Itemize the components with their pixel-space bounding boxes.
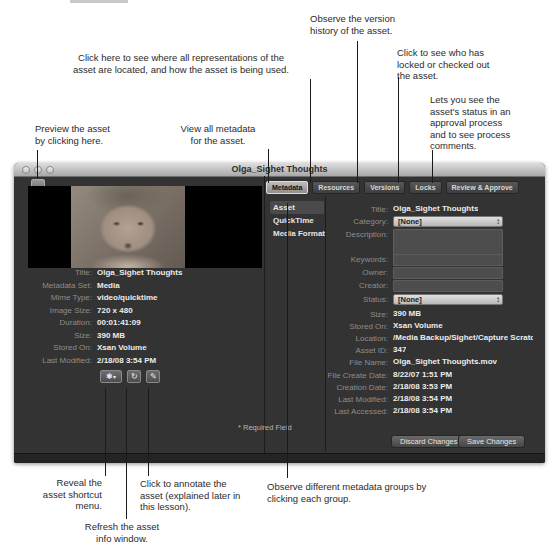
form-row-stored-on: Stored On:Xsan Volume	[314, 321, 538, 331]
owner-input[interactable]	[393, 267, 503, 279]
form-row-last-modified: Last Modified:2/18/08 3:54 PM	[314, 394, 538, 404]
creator-input[interactable]	[393, 280, 503, 292]
form-row-location: Location:/Media Backup/Sighet/Capture Sc…	[314, 333, 538, 343]
form-row-status: Status:[None]↕	[314, 294, 538, 305]
form-row-creator: Creator:	[314, 280, 538, 292]
asset-info-window: Olga_Sighet Thoughts Metadata Resources …	[14, 163, 545, 463]
status-dropdown[interactable]: [None]↕	[393, 294, 503, 305]
leader-line-versions-tab	[357, 41, 358, 183]
callout-preview: Preview the asset by clicking here.	[35, 123, 110, 146]
info-row: Duration:00:01:41:09	[20, 318, 260, 327]
form-row-file-create-date: File Create Date:8/22/07 1:51 PM	[314, 370, 538, 380]
save-changes-button[interactable]: Save Changes	[458, 435, 525, 448]
preview-area	[28, 186, 262, 268]
info-row: Last Modified:2/18/08 3:54 PM	[20, 356, 260, 365]
tab-bar: Metadata Resources Versions Locks Review…	[266, 181, 519, 194]
form-row-category: Category:[None]↕	[314, 216, 538, 227]
tab-review-approve[interactable]: Review & Approve	[446, 181, 519, 194]
tab-locks[interactable]: Locks	[409, 181, 441, 194]
callout-representations: Click here to see where all representati…	[48, 52, 314, 75]
form-row-asset-id: Asset ID:347	[314, 345, 538, 355]
info-row: Stored On:Xsan Volume	[20, 343, 260, 352]
form-row-title: Title:Olga_Sighet Thoughts	[314, 204, 538, 214]
category-dropdown[interactable]: [None]↕	[393, 216, 503, 227]
chevron-down-icon: ▾	[113, 374, 116, 380]
panel-divider	[264, 176, 265, 454]
keywords-input[interactable]	[393, 254, 503, 266]
annotate-icon: ✎	[150, 372, 157, 381]
asset-preview-image[interactable]	[71, 186, 185, 268]
refresh-icon: ↻	[131, 372, 138, 381]
window-footer	[14, 453, 545, 463]
leader-line-metadata-groups	[287, 203, 288, 478]
form-row-description: Description:	[314, 229, 538, 255]
gear-icon: ✱	[106, 372, 113, 381]
info-row: Title:Olga_Sighet Thoughts	[20, 268, 260, 277]
refresh-button[interactable]: ↻	[127, 370, 141, 383]
annotate-button[interactable]: ✎	[146, 370, 160, 383]
gear-menu-button[interactable]: ✱▾	[100, 370, 122, 383]
titlebar[interactable]: Olga_Sighet Thoughts	[14, 163, 545, 177]
leader-line-annotate-button	[148, 388, 149, 476]
callout-metadata-groups: Observe different metadata groups by cli…	[267, 481, 426, 504]
leader-line-metadata-tab	[268, 149, 269, 183]
callout-locks: Click to see who has locked or checked o…	[397, 47, 489, 82]
tab-resources[interactable]: Resources	[312, 181, 360, 194]
popup-stepper-icon: ↕	[496, 217, 500, 226]
required-field-note: * Required Field	[238, 423, 292, 432]
cropped-page-artifact	[70, 0, 128, 3]
form-row-creation-date: Creation Date:2/18/08 3:53 PM	[314, 382, 538, 392]
discard-changes-button[interactable]: Discard Changes	[391, 435, 467, 448]
info-row: Mime Type:video/quicktime	[20, 293, 260, 302]
popup-stepper-icon: ↕	[496, 295, 500, 304]
form-row-last-accessed: Last Accessed:2/18/08 3:54 PM	[314, 406, 538, 416]
leader-line-refresh-button	[126, 388, 127, 519]
info-row: Image Size:720 x 480	[20, 306, 260, 315]
callout-shortcut-menu: Reveal the asset shortcut menu.	[28, 477, 102, 512]
leader-line-preview	[37, 150, 38, 178]
form-row-file-name: File Name:Olga_Sighet Thoughts.mov	[314, 357, 538, 367]
callout-view-metadata: View all metadata for the asset.	[172, 123, 264, 146]
window-title: Olga_Sighet Thoughts	[14, 164, 545, 174]
leader-line-locks-tab	[398, 77, 399, 183]
info-row: Metadata Set:Media	[20, 281, 260, 290]
callout-annotate: Click to annotate the asset (explained l…	[140, 478, 240, 513]
callout-refresh: Refresh the asset info window.	[78, 521, 166, 544]
info-row: Size:390 MB	[20, 331, 260, 340]
form-row-size: Size:390 MB	[314, 309, 538, 319]
leader-line-resources-tab	[310, 79, 311, 183]
callout-version-history: Observe the version history of the asset…	[310, 13, 395, 36]
form-row-owner: Owner:	[314, 267, 538, 279]
leader-line-review-tab	[432, 150, 433, 183]
tab-versions[interactable]: Versions	[364, 181, 405, 194]
callout-review-approve: Lets you see the asset's status in an ap…	[430, 94, 511, 152]
leader-line-gear-button	[105, 388, 106, 476]
tab-metadata[interactable]: Metadata	[266, 181, 308, 194]
asset-toolbar: ✱▾ ↻ ✎	[100, 370, 160, 383]
page: Observe the version history of the asset…	[0, 0, 553, 555]
description-textarea[interactable]	[393, 229, 503, 255]
form-row-keywords: Keywords:	[314, 254, 538, 266]
